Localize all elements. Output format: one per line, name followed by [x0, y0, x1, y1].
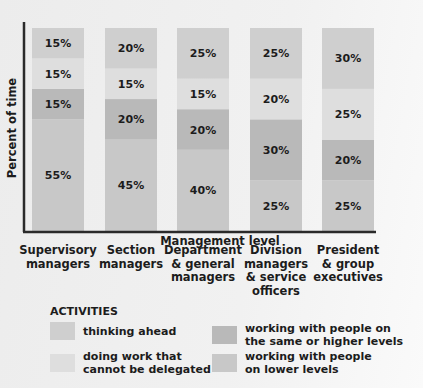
legend-item-thinking-ahead: thinking ahead: [50, 322, 176, 340]
legend-label: doing work that cannot be delegated: [83, 350, 211, 376]
data-label: 30%: [335, 52, 361, 65]
data-label: 15%: [45, 68, 71, 81]
data-label: 45%: [118, 179, 144, 192]
legend-item-same-or-higher-levels: working with people on the same or highe…: [212, 322, 403, 348]
data-label: 15%: [45, 98, 71, 111]
legend-label: working with people on the same or highe…: [245, 322, 403, 348]
data-label: 30%: [263, 144, 289, 157]
data-label: 25%: [335, 200, 361, 213]
data-label: 25%: [263, 200, 289, 213]
data-label: 15%: [118, 78, 144, 91]
data-label: 15%: [45, 37, 71, 50]
legend-item-non-delegable-work: doing work that cannot be delegated: [50, 350, 211, 376]
legend-label: working with people on lower levels: [245, 350, 372, 376]
legend-item-lower-levels: working with people on lower levels: [212, 350, 372, 376]
data-label: 15%: [190, 88, 216, 101]
category-label: President & group executives: [308, 244, 388, 285]
legend-title: ACTIVITIES: [50, 305, 118, 318]
data-label: 25%: [263, 47, 289, 60]
data-label: 40%: [190, 184, 216, 197]
category-label: Section managers: [91, 244, 171, 271]
legend-swatch: [50, 354, 75, 372]
category-label: Department & general managers: [163, 244, 243, 285]
data-label: 20%: [118, 42, 144, 55]
stacked-bar-chart: 55%15%15%15%45%20%15%20%40%20%15%25%25%3…: [0, 0, 423, 240]
category-label: Division managers & service officers: [236, 244, 316, 298]
data-label: 20%: [263, 93, 289, 106]
legend-swatch: [50, 322, 75, 340]
data-label: 25%: [190, 47, 216, 60]
category-label: Supervisory managers: [18, 244, 98, 271]
data-label: 55%: [45, 169, 71, 182]
legend-swatch: [212, 354, 237, 372]
data-label: 20%: [190, 124, 216, 137]
data-label: 20%: [335, 154, 361, 167]
legend-swatch: [212, 326, 237, 344]
legend-label: thinking ahead: [83, 325, 176, 338]
bars-group: 55%15%15%15%45%20%15%20%40%20%15%25%25%3…: [32, 28, 374, 231]
data-label: 20%: [118, 113, 144, 126]
data-label: 25%: [335, 108, 361, 121]
y-axis-label: Percent of time: [5, 78, 19, 179]
